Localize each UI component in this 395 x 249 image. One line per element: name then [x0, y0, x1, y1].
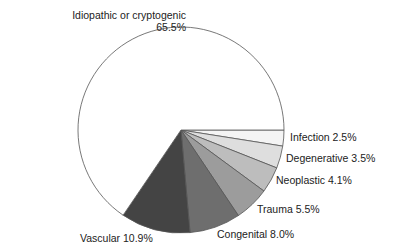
label-neoplastic: Neoplastic 4.1% [276, 174, 352, 186]
label-trauma: Trauma 5.5% [257, 203, 320, 215]
label-vascular: Vascular 10.9% [80, 232, 153, 244]
label-infection: Infection 2.5% [290, 131, 357, 143]
label-idiopathic-value: 65.5% [2, 21, 186, 33]
label-congenital: Congenital 8.0% [217, 228, 294, 240]
label-idiopathic-name: Idiopathic or cryptogenic [2, 9, 186, 21]
label-degenerative: Degenerative 3.5% [286, 152, 375, 164]
label-idiopathic: Idiopathic or cryptogenic 65.5% [2, 9, 186, 33]
pie-chart: Idiopathic or cryptogenic 65.5% Infectio… [0, 0, 395, 249]
pie-chart-graphic [0, 0, 395, 249]
